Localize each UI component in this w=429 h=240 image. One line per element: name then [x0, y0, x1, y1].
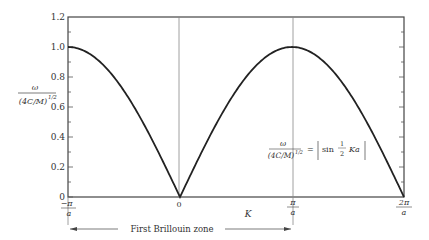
brillouin-zone-arrow: First Brillouin zone	[70, 224, 291, 234]
y-tick-labels: 0 0.2 0.4 0.6 0.8 1.0 1.2	[51, 12, 66, 202]
svg-text:π: π	[66, 199, 73, 208]
svg-text:ω: ω	[280, 139, 286, 148]
svg-text:(4C/M): (4C/M)	[19, 97, 47, 106]
svg-text:0: 0	[176, 200, 181, 209]
svg-text:ω: ω	[32, 83, 39, 92]
dispersion-curve	[68, 47, 404, 197]
y-tick-1.0: 1.0	[51, 42, 66, 52]
x-axis-label: K	[244, 209, 253, 219]
y-ticks-right	[399, 32, 404, 182]
brillouin-zone-label: First Brillouin zone	[130, 224, 213, 234]
svg-text:1/2: 1/2	[295, 149, 303, 155]
dispersion-chart: 0 0.2 0.4 0.6 0.8 1.0 1.2 ω (4C/M) 1/2 −…	[0, 0, 429, 240]
svg-text:a: a	[67, 209, 72, 218]
y-tick-1.2: 1.2	[51, 12, 65, 22]
y-tick-0.6: 0.6	[51, 102, 66, 112]
svg-text:π: π	[289, 198, 296, 207]
svg-text:a: a	[402, 208, 407, 217]
y-tick-0.8: 0.8	[51, 72, 66, 82]
svg-text:sin: sin	[322, 145, 334, 154]
plot-frame	[68, 17, 404, 197]
svg-text:−: −	[61, 199, 68, 208]
svg-text:2π: 2π	[398, 198, 410, 207]
svg-text:Ka: Ka	[348, 145, 360, 154]
y-tick-0.2: 0.2	[51, 162, 65, 172]
svg-text:(4C/M): (4C/M)	[268, 151, 295, 160]
svg-text:1: 1	[340, 140, 344, 148]
equation-annotation: ω (4C/M) 1/2 = sin 1 2 Ka	[268, 139, 365, 160]
svg-text:2: 2	[340, 150, 344, 158]
svg-text:=: =	[307, 145, 314, 154]
x-tick-labels: − π a 0 π a 2π a	[61, 198, 412, 218]
y-tick-0.4: 0.4	[51, 132, 66, 142]
y-ticks-left	[68, 32, 73, 197]
svg-text:a: a	[291, 208, 296, 217]
svg-text:1/2: 1/2	[48, 94, 57, 100]
